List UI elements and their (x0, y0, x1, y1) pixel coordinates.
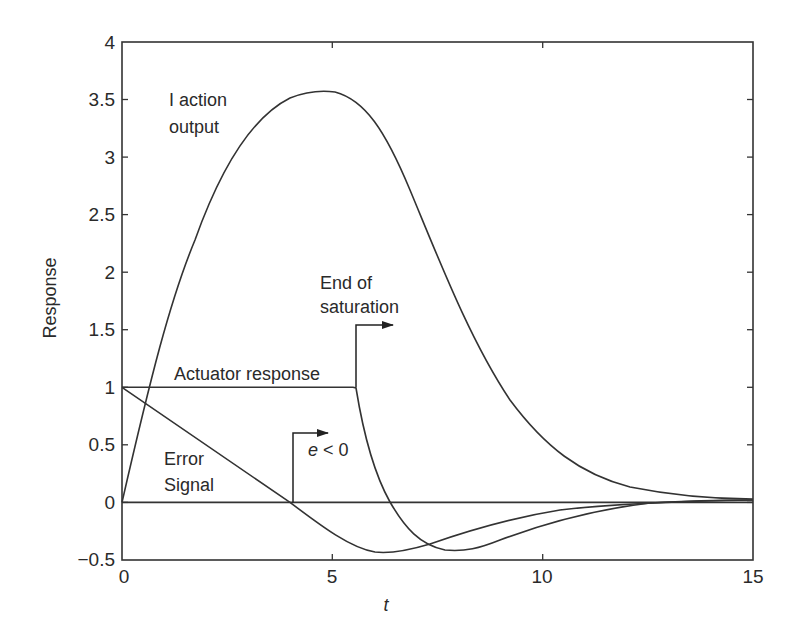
x-tick-label: 10 (531, 566, 552, 587)
error-signal-label-line1: Error (164, 449, 204, 469)
actuator-response-curve (122, 387, 753, 550)
y-tick-label: −0.5 (77, 549, 115, 570)
y-axis-ticks (122, 100, 753, 503)
x-axis-label: t (383, 595, 389, 615)
e-less-than-zero-label: e < 0 (308, 440, 349, 460)
error-signal-label-line2: Signal (164, 475, 214, 495)
chart-canvas: −0.5 0 0.5 1 1.5 2 2.5 3 3.5 4 0 5 10 15… (0, 0, 796, 642)
x-tick-label: 0 (119, 566, 130, 587)
y-axis-label: Response (40, 257, 60, 338)
y-tick-label: 0 (104, 492, 115, 513)
i-action-label-line2: output (169, 117, 219, 137)
i-action-label-line1: I action (169, 90, 227, 110)
y-tick-labels: −0.5 0 0.5 1 1.5 2 2.5 3 3.5 4 (77, 32, 115, 570)
y-tick-label: 3.5 (89, 89, 115, 110)
error-signal-curve (122, 387, 753, 552)
end-of-saturation-arrow (356, 325, 393, 387)
x-tick-label: 15 (742, 566, 763, 587)
e-variable: e (308, 440, 318, 460)
end-of-saturation-label-line2: saturation (320, 297, 399, 317)
y-tick-label: 3 (104, 147, 115, 168)
y-tick-label: 2.5 (89, 204, 115, 225)
y-tick-label: 1.5 (89, 319, 115, 340)
actuator-response-label: Actuator response (174, 364, 320, 384)
end-of-saturation-label-line1: End of (320, 273, 373, 293)
e-condition: < 0 (318, 440, 349, 460)
y-tick-label: 1 (104, 377, 115, 398)
i-action-output-curve (122, 91, 753, 502)
y-tick-label: 0.5 (89, 434, 115, 455)
x-tick-labels: 0 5 10 15 (119, 566, 764, 587)
y-tick-label: 2 (104, 262, 115, 283)
y-tick-label: 4 (104, 32, 115, 53)
x-tick-label: 5 (327, 566, 338, 587)
